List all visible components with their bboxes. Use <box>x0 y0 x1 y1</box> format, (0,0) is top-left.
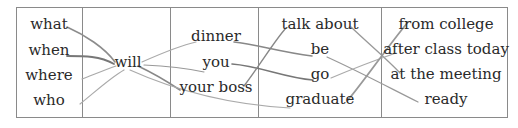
column-divider <box>82 7 83 118</box>
word-what: what <box>30 17 67 32</box>
word-after-class-today: after class today <box>383 42 509 57</box>
column-divider <box>258 7 259 118</box>
word-talk-about: talk about <box>282 17 359 32</box>
word-ready: ready <box>424 92 467 107</box>
word-be: be <box>311 42 329 57</box>
word-go: go <box>311 67 330 82</box>
word-you: you <box>202 55 229 70</box>
word-when: when <box>28 43 69 58</box>
word-who: who <box>33 93 65 108</box>
column-divider <box>170 7 171 118</box>
column-divider <box>381 7 382 118</box>
word-where: where <box>25 68 72 83</box>
word-your-boss: your boss <box>179 80 252 95</box>
word-from-college: from college <box>398 17 493 32</box>
word-dinner: dinner <box>191 29 241 44</box>
word-graduate: graduate <box>286 92 355 107</box>
word-will: will <box>114 55 141 70</box>
word-at-the-meeting: at the meeting <box>390 67 501 82</box>
